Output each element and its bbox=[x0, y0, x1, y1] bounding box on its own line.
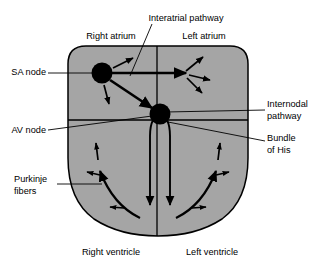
label-purkinje-fibers-line1: Purkinje bbox=[14, 174, 47, 184]
label-internodal-pathway-line2: pathway bbox=[267, 111, 302, 121]
sa-node-marker bbox=[92, 63, 113, 84]
label-left-ventricle: Left ventricle bbox=[186, 247, 238, 257]
label-right-atrium: Right atrium bbox=[86, 31, 136, 41]
label-sa-node: SA node bbox=[11, 67, 46, 77]
label-purkinje-fibers-line2: fibers bbox=[14, 186, 37, 196]
label-right-ventricle: Right ventricle bbox=[82, 247, 140, 257]
purkinje-lv-arrow-right-lower bbox=[192, 207, 206, 208]
purkinje-rv-arrow-left-lower bbox=[110, 207, 124, 208]
label-bundle-of-his-line2: of His bbox=[267, 145, 291, 155]
av-node-marker bbox=[150, 104, 171, 125]
heart-conduction-diagram: Interatrial pathway Right atrium Left at… bbox=[0, 0, 330, 274]
conduction-system-figure: Interatrial pathway Right atrium Left at… bbox=[0, 0, 330, 274]
label-left-atrium: Left atrium bbox=[182, 31, 226, 41]
label-interatrial-pathway: Interatrial pathway bbox=[148, 13, 223, 23]
label-bundle-of-his-line1: Bundle bbox=[267, 133, 296, 143]
label-av-node: AV node bbox=[11, 125, 46, 135]
label-internodal-pathway-line1: Internodal bbox=[267, 99, 308, 109]
